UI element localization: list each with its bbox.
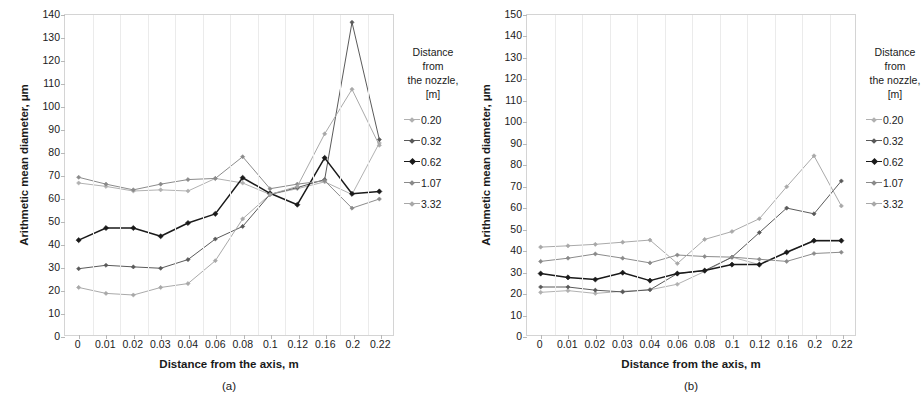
panel-b-x-tick-label: 0.1 [725, 339, 740, 350]
panel-b-x-tick-label: 0 [537, 339, 543, 350]
y-axis-tick [523, 36, 527, 37]
panel-b: Arithmetic mean diameter, μm 01020304050… [462, 0, 924, 412]
y-axis-tick [523, 15, 527, 16]
figure-two-panel-line-charts: Arithmetic mean diameter, μm 01020304050… [0, 0, 924, 412]
panel-a-y-tick-label: 40 [48, 239, 60, 250]
data-point-marker [757, 257, 761, 261]
panel-a-x-tick-label: 0.06 [205, 339, 225, 350]
data-point-marker [593, 288, 597, 292]
data-point-marker [539, 245, 543, 249]
data-point-marker [593, 242, 597, 246]
data-point-marker [703, 254, 707, 258]
y-axis-tick [523, 208, 527, 209]
panel-a-legend-item-0-32[interactable]: 0.32 [404, 130, 462, 151]
panel-a-y-tick-label: 60 [48, 193, 60, 204]
data-point-marker [186, 189, 190, 193]
vertical-gridline [368, 15, 369, 335]
vertical-gridline [692, 15, 693, 335]
y-axis-tick [61, 314, 65, 315]
data-point-marker [839, 250, 843, 254]
panel-a-y-tick-label: 120 [42, 55, 60, 66]
panel-a-y-tick-label: 100 [42, 101, 60, 112]
panel-a-x-tick-label: 0.12 [288, 339, 308, 350]
panel-b-legend-item-3-32[interactable]: 3.32 [866, 193, 924, 214]
data-point-marker [350, 20, 354, 24]
panel-b-series-0-32 [539, 179, 844, 294]
data-point-marker [539, 285, 543, 289]
data-point-marker [648, 288, 652, 292]
panel-b-legend: Distancefromthe nozzle,[m] 0.200.320.621… [866, 46, 924, 214]
panel-b-caption: (b) [526, 380, 856, 392]
panel-a-legend-title-line: the nozzle, [404, 74, 462, 88]
panel-a-legend-title-line: [m] [404, 88, 462, 102]
panel-a-y-tick-label: 90 [48, 124, 60, 135]
panel-b-y-tick-label: 60 [510, 202, 522, 213]
panel-b-series-layer [527, 15, 855, 335]
vertical-gridline [802, 15, 803, 335]
panel-b-y-tick-label: 80 [510, 159, 522, 170]
panel-b-series-1-07 [539, 250, 844, 265]
vertical-gridline [610, 15, 611, 335]
panel-a-y-tick-label: 10 [48, 308, 60, 319]
legend-item-label: 0.62 [421, 156, 441, 168]
data-point-marker [77, 267, 81, 271]
data-point-marker [104, 263, 108, 267]
panel-a-x-tick-label: 0.2 [345, 339, 360, 350]
panel-a-legend-item-1-07[interactable]: 1.07 [404, 172, 462, 193]
panel-b-x-tick-label: 0.02 [585, 339, 605, 350]
panel-b-legend-title-line: Distance [866, 46, 924, 60]
panel-a-x-tick-label: 0.04 [178, 339, 198, 350]
legend-item-label: 3.32 [421, 198, 441, 210]
panel-a: Arithmetic mean diameter, μm 01020304050… [0, 0, 462, 412]
vertical-gridline [203, 15, 204, 335]
legend-item-label: 0.32 [883, 135, 903, 147]
panel-b-legend-item-0-32[interactable]: 0.32 [866, 130, 924, 151]
panel-b-legend-item-1-07[interactable]: 1.07 [866, 172, 924, 193]
panel-a-x-tick-label: 0 [75, 339, 81, 350]
panel-a-y-tick-label: 50 [48, 216, 60, 227]
panel-a-x-tick-label: 0.08 [233, 339, 253, 350]
panel-b-x-tick-label: 0.22 [832, 339, 852, 350]
legend-line-marker-icon [404, 178, 420, 188]
y-axis-tick [61, 107, 65, 108]
panel-b-y-tick-label: 90 [510, 138, 522, 149]
vertical-gridline [665, 15, 666, 335]
data-point-marker [839, 204, 843, 208]
data-point-marker [593, 277, 598, 282]
data-point-marker [675, 253, 679, 257]
panel-b-legend-title-line: [m] [866, 88, 924, 102]
y-axis-tick [61, 337, 65, 338]
panel-a-legend-item-0-20[interactable]: 0.20 [404, 109, 462, 130]
panel-b-legend-item-0-20[interactable]: 0.20 [866, 109, 924, 130]
vertical-gridline [775, 15, 776, 335]
panel-a-legend-item-3-32[interactable]: 3.32 [404, 193, 462, 214]
data-point-marker [538, 271, 543, 276]
legend-item-label: 1.07 [883, 177, 903, 189]
legend-item-label: 0.62 [883, 156, 903, 168]
panel-a-x-tick-labels: 00.010.020.030.040.060.080.10.120.160.20… [64, 339, 394, 355]
vertical-gridline [637, 15, 638, 335]
data-point-marker [647, 278, 652, 283]
panel-b-x-tick-label: 0.03 [612, 339, 632, 350]
y-axis-tick [61, 130, 65, 131]
panel-a-series-0-32 [77, 20, 382, 271]
panel-b-legend-item-0-62[interactable]: 0.62 [866, 151, 924, 172]
y-axis-tick [61, 84, 65, 85]
panel-a-x-tick-label: 0.16 [315, 339, 335, 350]
panel-a-y-axis-title: Arithmetic mean diameter, μm [14, 0, 34, 330]
y-axis-tick [523, 122, 527, 123]
panel-a-legend-item-0-62[interactable]: 0.62 [404, 151, 462, 172]
panel-b-x-tick-label: 0.01 [557, 339, 577, 350]
data-point-marker [565, 275, 570, 280]
panel-b-y-tick-label: 140 [504, 30, 522, 41]
y-axis-tick [523, 187, 527, 188]
panel-b-y-tick-label: 50 [510, 223, 522, 234]
data-point-marker [159, 285, 163, 289]
panel-a-plot-wrapper: 0102030405060708090100110120130140 00.01… [34, 14, 404, 344]
data-point-marker [77, 285, 81, 289]
panel-a-y-tick-label: 70 [48, 170, 60, 181]
data-point-marker [675, 282, 679, 286]
data-point-marker [103, 225, 108, 230]
legend-line-marker-icon [866, 199, 882, 209]
y-axis-tick [61, 153, 65, 154]
